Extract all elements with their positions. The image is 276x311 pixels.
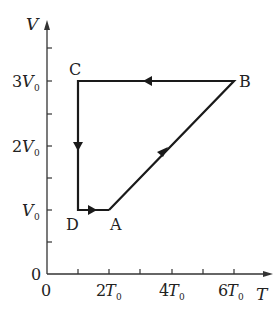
- vt-diagram: V T 0 0 V 0 2 V 0 3 V 0 2 T 0 4 T 0 6 T …: [0, 0, 276, 311]
- y-tick-label-v0: V 0: [22, 201, 40, 222]
- svg-text:0: 0: [238, 292, 244, 302]
- y-ticks: [47, 48, 52, 242]
- arrow-d-to-a-icon: [88, 205, 97, 215]
- origin-y-label: 0: [31, 265, 41, 284]
- x-axis-arrowhead-icon: [263, 271, 273, 277]
- y-tick-label-3v0: 3 V 0: [12, 72, 40, 93]
- svg-text:3: 3: [12, 72, 22, 91]
- cycle-path: [78, 81, 234, 210]
- x-axis-label: T: [256, 284, 269, 304]
- x-tick-label-2t0: 2 T 0: [96, 281, 122, 302]
- point-label-d: D: [66, 215, 79, 234]
- arrow-b-to-c-icon: [143, 76, 152, 86]
- point-label-b: B: [239, 72, 251, 91]
- y-axis-arrowhead-icon: [44, 20, 50, 30]
- svg-text:0: 0: [116, 292, 122, 302]
- x-ticks: [78, 269, 234, 274]
- origin-x-label: 0: [41, 281, 51, 300]
- x-tick-label-4t0: 4 T 0: [159, 281, 185, 302]
- svg-text:0: 0: [34, 212, 40, 222]
- arrow-c-to-d-icon: [73, 142, 83, 151]
- svg-text:2: 2: [12, 137, 22, 156]
- point-label-c: C: [69, 60, 81, 79]
- svg-text:0: 0: [34, 148, 40, 158]
- y-axis-label: V: [26, 14, 40, 34]
- svg-text:0: 0: [34, 83, 40, 93]
- point-label-a: A: [109, 215, 122, 234]
- y-tick-label-2v0: 2 V 0: [12, 137, 40, 158]
- svg-text:0: 0: [179, 292, 185, 302]
- x-tick-label-6t0: 6 T 0: [218, 281, 244, 302]
